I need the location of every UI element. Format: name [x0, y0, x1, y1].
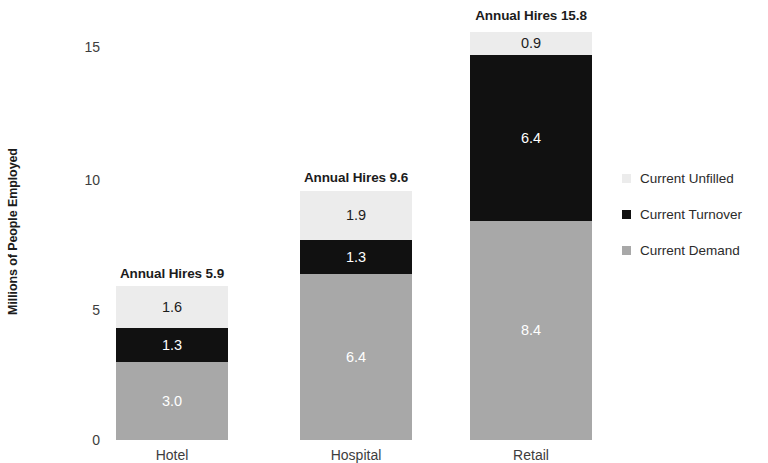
legend-swatch-icon	[622, 174, 631, 183]
bar-segment-hospital-current-turnover[interactable]: 1.3	[300, 240, 412, 274]
bar-segment-hospital-current-demand[interactable]: 6.4	[300, 274, 412, 440]
legend-item-current-demand[interactable]: Current Demand	[622, 232, 768, 268]
legend-item-current-turnover[interactable]: Current Turnover	[622, 196, 768, 232]
bar-segment-hotel-current-turnover[interactable]: 1.3	[116, 328, 228, 362]
bar-stack-hotel: 1.6 1.3 3.0	[116, 286, 228, 440]
bar-segment-retail-current-unfilled[interactable]: 0.9	[470, 32, 592, 55]
bar-segment-retail-current-turnover[interactable]: 6.4	[470, 55, 592, 221]
x-axis-label-retail: Retail	[513, 447, 549, 463]
bar-segment-value: 0.9	[521, 36, 541, 51]
bar-segment-retail-current-demand[interactable]: 8.4	[470, 221, 592, 440]
legend-item-label: Current Turnover	[640, 207, 742, 222]
bar-segment-hotel-current-demand[interactable]: 3.0	[116, 362, 228, 440]
bar-segment-hospital-current-unfilled[interactable]: 1.9	[300, 191, 412, 240]
bar-segment-value: 3.0	[162, 394, 182, 409]
bar-group-hospital[interactable]: Annual Hires 9.6 1.9 1.3 6.4 Hospital	[300, 0, 412, 463]
legend: Current Unfilled Current Turnover Curren…	[622, 160, 768, 268]
bar-segment-value: 1.3	[162, 338, 182, 353]
legend-item-label: Current Demand	[640, 243, 740, 258]
bar-segment-value: 8.4	[521, 323, 541, 338]
bar-segment-value: 1.6	[162, 300, 182, 315]
bar-group-hotel[interactable]: Annual Hires 5.9 1.6 1.3 3.0 Hotel	[116, 0, 228, 463]
legend-swatch-icon	[622, 210, 631, 219]
legend-item-current-unfilled[interactable]: Current Unfilled	[622, 160, 768, 196]
x-axis-label-hospital: Hospital	[331, 447, 382, 463]
bar-group-retail[interactable]: Annual Hires 15.8 0.9 6.4 8.4 Retail	[470, 0, 592, 463]
bar-segment-value: 1.9	[346, 208, 366, 223]
bar-total-label-retail: Annual Hires 15.8	[475, 8, 587, 23]
bar-total-label-hotel: Annual Hires 5.9	[120, 266, 224, 281]
bar-segment-value: 6.4	[521, 131, 541, 146]
bar-stack-retail: 0.9 6.4 8.4	[470, 32, 592, 440]
bar-stack-hospital: 1.9 1.3 6.4	[300, 191, 412, 440]
stacked-bar-chart: Millions of People Employed 0 5 10 15 An…	[0, 0, 768, 463]
bar-segment-value: 1.3	[346, 250, 366, 265]
bar-segment-value: 6.4	[346, 350, 366, 365]
legend-swatch-icon	[622, 246, 631, 255]
bar-total-label-hospital: Annual Hires 9.6	[304, 170, 408, 185]
x-axis-label-hotel: Hotel	[156, 447, 189, 463]
legend-item-label: Current Unfilled	[640, 171, 734, 186]
bar-segment-hotel-current-unfilled[interactable]: 1.6	[116, 286, 228, 328]
